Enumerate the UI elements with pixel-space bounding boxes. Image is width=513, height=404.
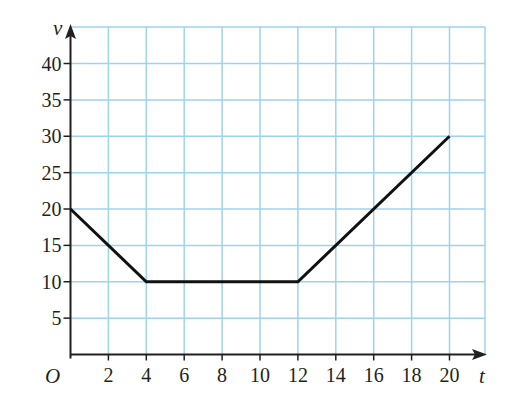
x-tick-label: 2 <box>103 364 113 386</box>
y-tick-label: 15 <box>42 234 62 256</box>
x-tick-label: 4 <box>141 364 151 386</box>
x-tick-label: 16 <box>364 364 384 386</box>
origin-label: O <box>45 364 60 388</box>
velocity-time-chart: 2468101214161820510152025303540 t v O <box>0 0 513 404</box>
x-tick-label: 12 <box>288 364 308 386</box>
ticks <box>64 64 450 361</box>
x-tick-label: 10 <box>250 364 270 386</box>
y-tick-label: 25 <box>42 162 62 184</box>
x-tick-label: 14 <box>326 364 346 386</box>
x-tick-label: 18 <box>402 364 422 386</box>
y-tick-label: 35 <box>42 89 62 111</box>
grid <box>71 27 486 355</box>
x-tick-label: 8 <box>217 364 227 386</box>
y-axis-label: v <box>53 16 63 40</box>
y-tick-label: 40 <box>42 53 62 75</box>
y-tick-label: 10 <box>42 271 62 293</box>
x-tick-label: 6 <box>179 364 189 386</box>
tick-labels: 2468101214161820510152025303540 <box>42 53 460 386</box>
x-axis-label: t <box>479 364 486 388</box>
axes <box>65 24 487 360</box>
y-tick-label: 5 <box>52 307 62 329</box>
y-tick-label: 20 <box>42 198 62 220</box>
y-tick-label: 30 <box>42 125 62 147</box>
x-tick-label: 20 <box>440 364 460 386</box>
